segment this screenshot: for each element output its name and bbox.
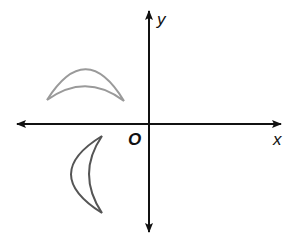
x-axis-label: x [272,130,282,149]
crescent-preimage [47,69,124,101]
origin-label: O [128,130,141,149]
crescent-image [71,136,102,213]
y-axis-label: y [156,10,167,29]
coordinate-plane: y x O [0,0,294,242]
